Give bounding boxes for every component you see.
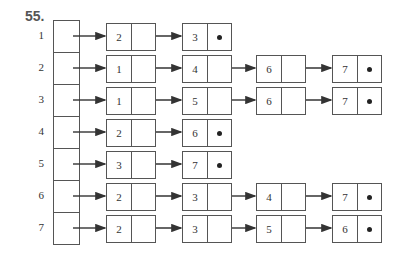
- list-node: 2: [106, 183, 156, 211]
- node-pointer: [132, 152, 155, 178]
- node-pointer: [132, 24, 155, 50]
- node-value: 7: [333, 56, 358, 82]
- list-node: 2: [106, 119, 156, 147]
- node-pointer: [208, 184, 231, 210]
- node-value: 3: [183, 216, 208, 242]
- null-pointer-icon: [217, 131, 222, 136]
- node-value: 5: [183, 88, 208, 114]
- node-value: 4: [257, 184, 282, 210]
- node-pointer: [132, 88, 155, 114]
- node-value: 6: [333, 216, 358, 242]
- node-pointer: [208, 216, 231, 242]
- list-node: 6: [182, 119, 232, 147]
- list-node: 3: [182, 215, 232, 243]
- node-value: 2: [107, 120, 132, 146]
- list-node: 5: [256, 215, 306, 243]
- list-node: 3: [182, 183, 232, 211]
- null-pointer-icon: [367, 99, 372, 104]
- node-pointer: [132, 120, 155, 146]
- null-pointer-icon: [217, 35, 222, 40]
- node-pointer: [282, 56, 305, 82]
- null-pointer-icon: [367, 67, 372, 72]
- node-pointer: [208, 120, 231, 146]
- node-value: 7: [183, 152, 208, 178]
- node-value: 4: [183, 56, 208, 82]
- list-node: 7: [182, 151, 232, 179]
- node-value: 1: [107, 88, 132, 114]
- node-value: 2: [107, 216, 132, 242]
- node-value: 7: [333, 88, 358, 114]
- node-pointer: [132, 216, 155, 242]
- list-node: 3: [106, 151, 156, 179]
- node-pointer: [358, 56, 381, 82]
- node-pointer: [282, 216, 305, 242]
- node-pointer: [282, 184, 305, 210]
- node-pointer: [358, 88, 381, 114]
- node-pointer: [132, 184, 155, 210]
- list-node: 1: [106, 87, 156, 115]
- list-node: 5: [182, 87, 232, 115]
- list-node: 6: [256, 55, 306, 83]
- node-pointer: [358, 184, 381, 210]
- null-pointer-icon: [367, 195, 372, 200]
- node-value: 2: [107, 184, 132, 210]
- list-node: 4: [182, 55, 232, 83]
- node-pointer: [208, 56, 231, 82]
- node-pointer: [358, 216, 381, 242]
- node-value: 3: [107, 152, 132, 178]
- node-pointer: [132, 56, 155, 82]
- list-node: 3: [182, 23, 232, 51]
- node-value: 1: [107, 56, 132, 82]
- node-value: 6: [257, 56, 282, 82]
- node-value: 6: [257, 88, 282, 114]
- list-node: 6: [332, 215, 382, 243]
- list-node: 7: [332, 55, 382, 83]
- list-node: 4: [256, 183, 306, 211]
- node-pointer: [208, 152, 231, 178]
- list-node: 1: [106, 55, 156, 83]
- node-value: 6: [183, 120, 208, 146]
- node-value: 5: [257, 216, 282, 242]
- list-node: 7: [332, 87, 382, 115]
- node-value: 3: [183, 24, 208, 50]
- null-pointer-icon: [367, 227, 372, 232]
- node-value: 3: [183, 184, 208, 210]
- node-value: 2: [107, 24, 132, 50]
- node-pointer: [208, 88, 231, 114]
- node-pointer: [208, 24, 231, 50]
- list-node: 7: [332, 183, 382, 211]
- node-pointer: [282, 88, 305, 114]
- list-node: 6: [256, 87, 306, 115]
- node-value: 7: [333, 184, 358, 210]
- list-node: 2: [106, 23, 156, 51]
- null-pointer-icon: [217, 163, 222, 168]
- list-node: 2: [106, 215, 156, 243]
